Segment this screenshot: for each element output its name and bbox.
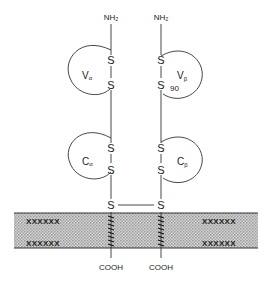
alpha-bridge-s: S	[107, 199, 114, 211]
c-alpha-loop	[68, 133, 111, 179]
beta-residue-90: 90	[170, 84, 179, 93]
c-beta-label: Cβ	[177, 156, 188, 168]
beta-n-terminus: NH₂	[154, 13, 169, 22]
svg-text:XXXXXX: XXXXXX	[26, 239, 60, 248]
alpha-v-s2: S	[107, 79, 114, 91]
svg-text:XXXXXX: XXXXXX	[202, 217, 236, 226]
alpha-c-s1: S	[107, 142, 114, 154]
beta-v-s1: S	[157, 54, 164, 66]
beta-bridge-s: S	[157, 199, 164, 211]
v-alpha-loop	[68, 45, 111, 94]
tcr-diagram: XXXXXX XXXXXX XXXXXX XXXXXX	[0, 0, 269, 282]
alpha-v-s1: S	[107, 54, 114, 66]
beta-c-terminus: COOH	[149, 263, 173, 272]
svg-text:XXXXXX: XXXXXX	[26, 217, 60, 226]
beta-c-s2: S	[157, 164, 164, 176]
beta-v-s2: S	[157, 79, 164, 91]
alpha-n-terminus: NH₂	[104, 13, 119, 22]
alpha-c-terminus: COOH	[99, 263, 123, 272]
beta-c-s1: S	[157, 142, 164, 154]
membrane: XXXXXX XXXXXX XXXXXX XXXXXX	[14, 213, 258, 248]
c-alpha-label: Cα	[82, 156, 93, 167]
v-beta-label: Vβ	[177, 70, 188, 82]
alpha-c-s2: S	[107, 164, 114, 176]
v-alpha-label: Vα	[82, 70, 93, 81]
svg-text:XXXXXX: XXXXXX	[202, 239, 236, 248]
